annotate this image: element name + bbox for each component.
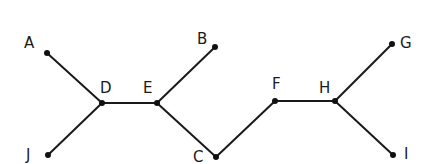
nodes [44, 41, 396, 160]
node-label-f: F [272, 75, 281, 93]
tree-diagram: ADJEBCFHGI [0, 0, 426, 164]
node-d [99, 100, 105, 106]
node-j [45, 152, 51, 158]
node-f [272, 98, 278, 104]
edge-h-i [335, 101, 393, 155]
edge-a-d [47, 53, 102, 103]
node-g [389, 41, 395, 47]
node-i [390, 152, 396, 158]
node-label-b: B [197, 30, 207, 48]
edges [47, 44, 393, 157]
node-label-d: D [100, 79, 112, 97]
node-label-g: G [400, 34, 412, 52]
node-label-j: J [25, 146, 30, 164]
edge-e-c [157, 103, 216, 157]
node-label-i: I [404, 145, 408, 163]
edge-e-b [157, 47, 215, 103]
node-label-a: A [24, 34, 35, 52]
node-label-c: C [193, 148, 203, 164]
node-label-e: E [143, 79, 152, 97]
node-e [154, 100, 160, 106]
labels: ADJEBCFHGI [24, 30, 412, 164]
node-b [212, 44, 218, 50]
node-h [332, 98, 338, 104]
edge-h-g [335, 44, 392, 101]
node-c [213, 154, 219, 160]
node-label-h: H [319, 79, 330, 97]
edge-c-f [216, 101, 275, 157]
node-a [44, 50, 50, 56]
edge-j-d [48, 103, 102, 155]
